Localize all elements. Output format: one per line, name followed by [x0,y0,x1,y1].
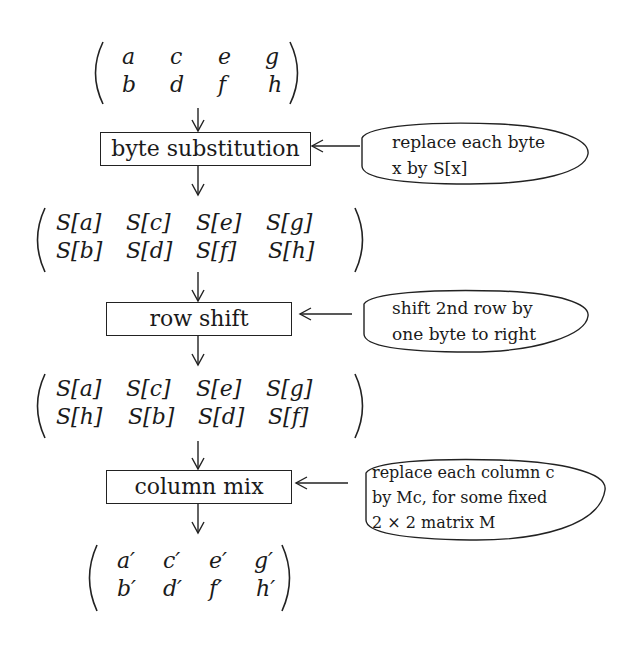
matrix-cell: S[f] [196,238,236,263]
matrix-cell: S[a] [56,210,101,235]
note-column-mix: replace each column c by Mc, for some fi… [372,460,554,535]
matrix-cell: S[g] [266,210,312,235]
matrix-cell: S[h] [56,404,102,429]
step-box-row-shift: row shift [106,302,292,336]
matrix-cell: b′ [117,576,136,601]
paren-right-matrix-3 [355,374,363,438]
matrix-cell: c′ [163,548,180,573]
matrix-cell: S[e] [196,376,241,401]
paren-left-output [90,545,98,611]
diagram-connectors [0,0,637,645]
matrix-cell: S[g] [266,376,312,401]
note-byte-substitution: replace each byte x by S[x] [392,129,545,181]
note-line: shift 2nd row by [392,295,536,321]
note-line: by Mc, for some fixed [372,485,554,510]
matrix-cell: S[a] [56,376,101,401]
step-box-byte-substitution: byte substitution [100,132,311,166]
matrix-cell: g [265,44,279,69]
matrix-cell: S[e] [196,210,241,235]
matrix-cell: a [122,44,135,69]
matrix-cell: S[c] [126,376,171,401]
matrix-cell: S[b] [128,404,174,429]
note-row-shift: shift 2nd row by one byte to right [392,295,536,347]
matrix-cell: h [268,72,282,97]
matrix-cell: f [218,72,226,97]
note-line: 2 × 2 matrix M [372,510,554,535]
matrix-cell: S[c] [126,210,171,235]
matrix-cell: S[h] [268,238,314,263]
note-line: one byte to right [392,321,536,347]
matrix-cell: S[f] [268,404,308,429]
matrix-cell: d [170,72,184,97]
matrix-cell: e′ [209,548,227,573]
paren-right-input [290,42,298,104]
note-line: replace each byte [392,129,545,155]
paren-right-matrix-2 [355,208,363,272]
matrix-cell: b [122,72,136,97]
matrix-cell: e [218,44,231,69]
paren-right-output [282,545,290,611]
step-box-column-mix: column mix [106,470,292,504]
matrix-cell: f′ [209,576,222,601]
matrix-cell: a′ [117,548,135,573]
paren-left-input [96,42,104,104]
matrix-cell: S[b] [56,238,102,263]
note-line: replace each column c [372,460,554,485]
paren-left-matrix-3 [38,374,46,438]
paren-left-matrix-2 [38,208,46,272]
matrix-cell: S[d] [198,404,244,429]
matrix-cell: S[d] [126,238,172,263]
matrix-cell: h′ [256,576,275,601]
matrix-cell: g′ [254,548,273,573]
matrix-cell: d′ [163,576,182,601]
note-line: x by S[x] [392,155,545,181]
matrix-cell: c [170,44,182,69]
